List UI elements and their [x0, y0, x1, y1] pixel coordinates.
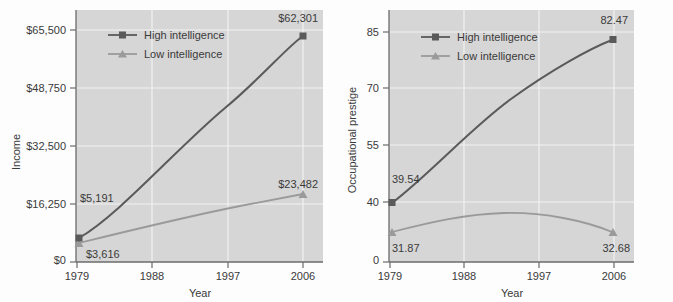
- prestige-chart-svg: 85 70 55 40 0 1979 1988 1997 2006 Year O…: [336, 0, 672, 302]
- xtick-label-1997: 1997: [527, 270, 551, 282]
- y-axis-title: Occupational prestige: [346, 87, 358, 193]
- datalabel-low-1979: $3,616: [86, 248, 120, 260]
- income-chart-svg: $65,500 $48,750 $32,500 $16,250 $0 1979 …: [0, 0, 336, 302]
- high-intelligence-marker-1979: [389, 199, 396, 206]
- y-axis-ticks: [383, 32, 389, 262]
- ytick-label-16250: $16,250: [26, 198, 66, 210]
- datalabel-low-1979: 31.87: [392, 242, 420, 254]
- ytick-label-0: 0: [373, 254, 379, 266]
- ytick-label-55: 55: [367, 139, 379, 151]
- high-intelligence-marker-1979: [76, 235, 83, 242]
- xtick-label-1988: 1988: [452, 270, 476, 282]
- xtick-label-2006: 2006: [602, 270, 626, 282]
- x-axis-ticks: [390, 262, 614, 268]
- ytick-label-48750: $48,750: [26, 82, 66, 94]
- datalabel-high-2006: $62,301: [278, 12, 318, 24]
- x-axis-title: Year: [189, 287, 212, 299]
- legend-label-low: Low intelligence: [457, 50, 535, 62]
- income-chart-panel: $65,500 $48,750 $32,500 $16,250 $0 1979 …: [0, 0, 336, 302]
- datalabel-low-2006: 32.68: [602, 242, 630, 254]
- datalabel-low-2006: $23,482: [278, 178, 318, 190]
- legend-marker-square-icon: [119, 32, 126, 39]
- legend-label-high: High intelligence: [144, 29, 225, 41]
- datalabel-high-1979: 39.54: [392, 173, 420, 185]
- ytick-label-65500: $65,500: [26, 24, 66, 36]
- y-axis-ticks: [70, 30, 76, 262]
- ytick-label-85: 85: [367, 26, 379, 38]
- x-axis-ticks: [77, 262, 303, 268]
- legend-marker-square-icon: [432, 34, 439, 41]
- high-intelligence-marker-2006: [300, 33, 307, 40]
- prestige-chart-panel: 85 70 55 40 0 1979 1988 1997 2006 Year O…: [336, 0, 672, 302]
- ytick-label-0: $0: [54, 254, 66, 266]
- legend-label-low: Low intelligence: [144, 48, 222, 60]
- x-axis-title: Year: [501, 287, 524, 299]
- legend-label-high: High intelligence: [457, 31, 538, 43]
- ytick-label-40: 40: [367, 196, 379, 208]
- ytick-label-32500: $32,500: [26, 140, 66, 152]
- datalabel-high-1979: $5,191: [80, 192, 114, 204]
- xtick-label-1979: 1979: [65, 270, 89, 282]
- y-axis-title: Income: [10, 134, 22, 170]
- figure-container: $65,500 $48,750 $32,500 $16,250 $0 1979 …: [0, 0, 673, 302]
- high-intelligence-marker-2006: [610, 36, 617, 43]
- xtick-label-1988: 1988: [140, 270, 164, 282]
- datalabel-high-2006: 82.47: [600, 14, 628, 26]
- xtick-label-1979: 1979: [378, 270, 402, 282]
- ytick-label-70: 70: [367, 82, 379, 94]
- xtick-label-1997: 1997: [216, 270, 240, 282]
- xtick-label-2006: 2006: [291, 270, 315, 282]
